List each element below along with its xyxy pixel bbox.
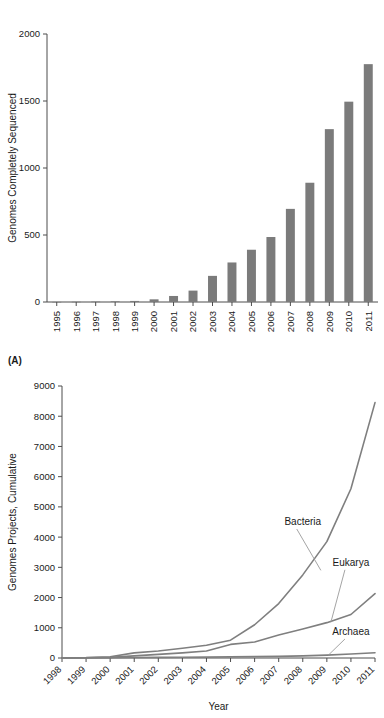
series-line-archaea [62,653,375,658]
bar-group [208,276,217,302]
panel-a-x-tick-label-2006: 2006 [265,311,276,332]
panel-b-x-tick-label-2010: 2010 [330,664,353,687]
bar-2010 [344,102,353,302]
panel-a-y-tick-label: 2000 [19,28,40,39]
panel-a-y-tick-label: 1000 [19,162,40,173]
panel-b-x-axis-title: Year [208,701,229,712]
panel-b-y-tick-label: 3000 [34,562,55,573]
panel-a-x-tick-label-2002: 2002 [187,311,198,332]
panel-b-y-tick-label: 2000 [34,592,55,603]
panel-a-x-tick-label-1996: 1996 [71,311,82,332]
panel-b-x-tick-label-1998: 1998 [41,664,64,687]
panel-b-x-tick-label-2003: 2003 [161,664,184,687]
panel-a-x-tick-label-2003: 2003 [207,311,218,332]
panel-a-x-tick-label-2011: 2011 [363,311,374,331]
panel-b-x-tick-label-2008: 2008 [281,664,304,687]
bar-1998 [111,301,120,302]
bar-group [150,299,159,302]
panel-a-x-tick-label-1997: 1997 [90,311,101,332]
series-line-bacteria [62,403,375,658]
panel-b-y-tick-label: 0 [50,652,55,663]
panel-b-x-tick-label-1999: 1999 [65,664,88,687]
panel-a-bar-chart: 0500100015002000199519961997199819992000… [0,0,384,350]
panel-b-x-tick-label-2000: 2000 [89,664,112,687]
bar-2003 [208,276,217,302]
panel-b-y-tick-label: 4000 [34,532,55,543]
bar-2001 [169,296,178,302]
panel-a-y-tick-label: 500 [24,229,40,240]
panel-a-letter: (A) [8,350,22,368]
panel-a-x-tick-label-1998: 1998 [110,311,121,332]
panel-b-x-tick-label-2006: 2006 [233,664,256,687]
panel-b-x-tick-label-2009: 2009 [306,664,329,687]
panel-a-x-tick-label-2004: 2004 [226,311,237,332]
panel-a-x-tick-label-2008: 2008 [304,311,315,332]
bar-group [111,301,120,302]
bar-1999 [130,301,139,302]
leader-line-eukarya [331,570,345,623]
panel-a-letter-text: (A) [8,355,22,366]
bar-2009 [325,129,334,302]
bar-group [286,209,295,302]
bar-group [266,237,275,302]
panel-a-y-axis-title: Genomes Completely Sequenced [7,93,18,243]
panel-a-y-tick-label: 1500 [19,95,40,106]
panel-a-y-tick-label: 0 [35,296,40,307]
leader-line-archaea [329,639,345,655]
bar-group [344,102,353,302]
panel-b-x-tick-label-2005: 2005 [209,664,232,687]
panel-b-y-tick-label: 7000 [34,441,55,452]
bar-group [169,296,178,302]
bar-group [247,250,256,302]
bar-2007 [286,209,295,302]
series-annotation-eukarya: Eukarya [333,557,370,568]
panel-b-y-tick-label: 6000 [34,471,55,482]
bar-2011 [364,64,373,302]
panel-a-x-tick-label-2010: 2010 [343,311,354,332]
panel-a-x-tick-label-2000: 2000 [148,311,159,332]
panel-b-y-tick-label: 9000 [34,380,55,391]
series-line-eukarya [62,594,375,658]
bar-group [325,129,334,302]
panel-b-x-tick-label-2002: 2002 [137,664,160,687]
panel-b-y-tick-label: 1000 [34,622,55,633]
bar-group [364,64,373,302]
series-annotation-archaea: Archaea [332,626,370,637]
bar-group [227,262,236,302]
bar-2006 [266,237,275,302]
panel-a-x-tick-label-2009: 2009 [324,311,335,332]
panel-a-x-tick-label-2007: 2007 [285,311,296,332]
panel-b-line-chart: 0100020003000400050006000700080009000199… [0,370,384,718]
panel-b-x-tick-label-2011: 2011 [354,664,376,686]
bar-group [305,183,314,302]
panel-a-x-tick-label-2005: 2005 [246,311,257,332]
bar-2000 [150,299,159,302]
bar-2005 [247,250,256,302]
panel-b-y-tick-label: 8000 [34,411,55,422]
panel-a-x-tick-label-2001: 2001 [168,311,179,332]
figure-genome-sequencing: 0500100015002000199519961997199819992000… [0,0,384,718]
bar-group [130,301,139,302]
panel-b-y-tick-label: 5000 [34,501,55,512]
panel-b-x-tick-label-2004: 2004 [185,664,208,687]
panel-b-x-tick-label-2007: 2007 [257,664,280,687]
panel-a-x-tick-label-1995: 1995 [51,311,62,332]
panel-a-x-tick-label-1999: 1999 [129,311,140,332]
bar-2008 [305,183,314,302]
bar-group [189,291,198,302]
panel-b-y-axis-title: Genomes Projects, Cumulative [7,453,18,591]
bar-2002 [189,291,198,302]
panel-b-x-tick-label-2001: 2001 [113,664,136,687]
bar-2004 [227,262,236,302]
series-annotation-bacteria: Bacteria [284,516,321,527]
leader-line-bacteria [297,529,321,570]
